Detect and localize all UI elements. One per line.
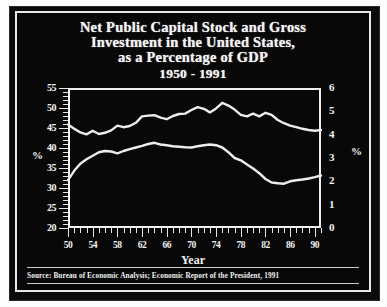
y2-tick-label: 2: [329, 174, 349, 186]
y-tick-label: 35: [34, 162, 56, 173]
y2-tick-label: 6: [329, 81, 349, 93]
y2-tick-label: 1: [329, 198, 349, 210]
source-note: Source: Bureau of Economic Analysis; Eco…: [27, 271, 363, 280]
y-tick-label: 25: [34, 202, 56, 213]
figure-canvas: Net Public Capital Stock and Gross Inves…: [0, 0, 387, 307]
plot-area: [68, 88, 321, 228]
x-tick-label: 62: [132, 240, 152, 250]
x-tick-label: 78: [231, 240, 251, 250]
source-rule-top: [27, 267, 359, 268]
title-line-4: 1950 - 1991: [17, 65, 369, 81]
x-tick-label: 54: [83, 240, 103, 250]
chart-board: Net Public Capital Stock and Gross Inves…: [17, 13, 369, 290]
y-tick-label: 55: [34, 82, 56, 93]
title-line-2: Investment in the United States,: [17, 35, 369, 50]
y-tick-label: 45: [34, 122, 56, 133]
y-tick-label: 30: [34, 182, 56, 193]
x-tick-label: 86: [280, 240, 300, 250]
title-line-3: as a Percentage of GDP: [17, 50, 369, 65]
y-axis-title-right: %: [351, 145, 362, 157]
y2-tick-label: 4: [329, 128, 349, 140]
x-tick-label: 66: [157, 240, 177, 250]
chart-title: Net Public Capital Stock and Gross Inves…: [17, 20, 369, 81]
x-tick-label: 90: [305, 240, 325, 250]
x-tick-label: 70: [181, 240, 201, 250]
y-axis-tick-rail: [59, 88, 68, 228]
x-tick-label: 74: [206, 240, 226, 250]
x-tick-label: 82: [255, 240, 275, 250]
x-tick-label: 50: [58, 240, 78, 250]
y2-tick-label: 3: [329, 151, 349, 163]
y2-tick-label: 5: [329, 104, 349, 116]
y2-tick-label: 0: [329, 221, 349, 233]
y-tick-label: 20: [34, 222, 56, 233]
y-axis-title-left: %: [32, 149, 43, 161]
y-tick-label: 50: [34, 102, 56, 113]
source-rule-bottom: [27, 283, 359, 284]
x-tick-label: 58: [107, 240, 127, 250]
title-line-1: Net Public Capital Stock and Gross: [17, 20, 369, 35]
x-axis-tick-rail: [68, 228, 321, 237]
x-axis-title: Year: [17, 253, 369, 268]
